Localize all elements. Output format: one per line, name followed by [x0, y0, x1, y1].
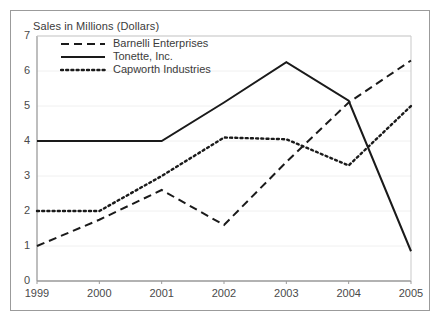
x-tick-label-2005: 2005 — [391, 287, 431, 299]
y-tick-label-3: 3 — [14, 169, 30, 181]
x-tick-label-2002: 2002 — [204, 287, 244, 299]
y-tick-label-2: 2 — [14, 204, 30, 216]
series-line-0 — [37, 61, 411, 247]
legend-item-0: Barnelli Enterprises — [60, 37, 211, 50]
legend-swatch-solid — [60, 51, 106, 63]
chart-legend: Barnelli EnterprisesTonette, Inc.Capwort… — [60, 37, 211, 76]
y-tick-label-7: 7 — [14, 29, 30, 41]
x-tick-label-2003: 2003 — [266, 287, 306, 299]
legend-swatch-dotted — [60, 64, 106, 76]
chart-figure: Sales in Millions (Dollars) 76543210 199… — [0, 0, 441, 328]
legend-label-1: Tonette, Inc. — [113, 50, 173, 63]
legend-label-2: Capworth Industries — [113, 63, 211, 76]
series-line-2 — [37, 106, 411, 211]
y-tick-label-5: 5 — [14, 99, 30, 111]
x-tick-label-2004: 2004 — [329, 287, 369, 299]
x-tick-label-2000: 2000 — [79, 287, 119, 299]
legend-item-2: Capworth Industries — [60, 63, 211, 76]
x-tick-label-1999: 1999 — [17, 287, 57, 299]
legend-label-0: Barnelli Enterprises — [113, 37, 208, 50]
legend-swatch-dashed — [60, 38, 106, 50]
legend-item-1: Tonette, Inc. — [60, 50, 211, 63]
series-lines — [37, 61, 411, 252]
y-tick-label-1: 1 — [14, 239, 30, 251]
y-tick-label-4: 4 — [14, 134, 30, 146]
series-line-1 — [37, 62, 411, 251]
y-tick-label-6: 6 — [14, 64, 30, 76]
x-tick-label-2001: 2001 — [142, 287, 182, 299]
y-tick-label-0: 0 — [14, 274, 30, 286]
